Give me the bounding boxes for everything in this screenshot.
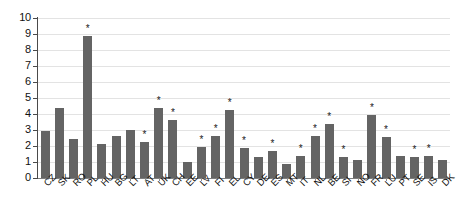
x-tick-mark-nl <box>315 178 316 181</box>
significance-marker-be: * <box>324 112 335 122</box>
x-tick-mark-cy <box>244 178 245 181</box>
x-tick-mark-ch <box>173 178 174 181</box>
bar-fr[interactable] <box>367 115 376 178</box>
significance-marker-lv: * <box>196 135 207 145</box>
bar-ch[interactable] <box>168 120 177 178</box>
x-tick-mark-sk <box>59 178 60 181</box>
x-tick-mark-si <box>343 178 344 181</box>
x-tick-mark-lv <box>201 178 202 181</box>
y-tick-mark-7 <box>33 66 38 67</box>
gridline-7 <box>38 66 450 67</box>
x-tick-mark-uk <box>159 178 160 181</box>
plot-area: ***************** <box>38 18 450 178</box>
significance-marker-it: * <box>295 144 306 154</box>
bar-sk[interactable] <box>55 108 64 178</box>
x-tick-mark-pt <box>400 178 401 181</box>
y-tick-mark-9 <box>33 34 38 35</box>
y-tick-label: 3 <box>6 124 31 135</box>
significance-marker-si: * <box>338 145 349 155</box>
y-tick-label: 9 <box>6 28 31 39</box>
y-tick-label: 10 <box>6 12 31 23</box>
x-tick-mark-no <box>358 178 359 181</box>
y-tick-label: 0 <box>6 172 31 183</box>
gridline-8 <box>38 50 450 51</box>
x-tick-mark-lt <box>130 178 131 181</box>
significance-marker-cy: * <box>239 136 250 146</box>
y-tick-mark-5 <box>33 98 38 99</box>
x-tick-mark-lu <box>386 178 387 181</box>
bar-pl[interactable] <box>83 36 92 178</box>
gridline-6 <box>38 82 450 83</box>
significance-marker-se: * <box>409 145 420 155</box>
y-tick-label: 5 <box>6 92 31 103</box>
gridline-10 <box>38 18 450 19</box>
x-tick-mark-fi <box>216 178 217 181</box>
y-tick-label: 8 <box>6 44 31 55</box>
x-tick-mark-el <box>230 178 231 181</box>
x-tick-mark-pl <box>88 178 89 181</box>
y-tick-mark-1 <box>33 162 38 163</box>
significance-marker-at: * <box>139 130 150 140</box>
x-tick-mark-dk <box>443 178 444 181</box>
y-tick-mark-0 <box>33 178 38 179</box>
y-tick-label: 6 <box>6 76 31 87</box>
y-tick-label: 7 <box>6 60 31 71</box>
x-tick-mark-at <box>145 178 146 181</box>
x-tick-mark-hu <box>102 178 103 181</box>
y-tick-mark-6 <box>33 82 38 83</box>
x-tick-mark-fr <box>372 178 373 181</box>
significance-marker-pl: * <box>82 24 93 34</box>
x-tick-mark-ee <box>187 178 188 181</box>
significance-marker-es: * <box>267 139 278 149</box>
y-tick-mark-2 <box>33 146 38 147</box>
y-tick-mark-10 <box>33 18 38 19</box>
y-tick-label: 2 <box>6 140 31 151</box>
bar-fi[interactable] <box>211 136 220 178</box>
y-tick-label: 4 <box>6 108 31 119</box>
x-tick-mark-de <box>258 178 259 181</box>
bar-uk[interactable] <box>154 108 163 178</box>
gridline-5 <box>38 98 450 99</box>
gridline-9 <box>38 34 450 35</box>
x-tick-mark-be <box>329 178 330 181</box>
significance-marker-el: * <box>224 98 235 108</box>
gridline-4 <box>38 114 450 115</box>
bar-el[interactable] <box>225 110 234 178</box>
x-tick-mark-es <box>272 178 273 181</box>
x-tick-mark-se <box>414 178 415 181</box>
bar-be[interactable] <box>325 124 334 178</box>
x-tick-mark-is <box>429 178 430 181</box>
x-tick-mark-bg <box>116 178 117 181</box>
significance-marker-lu: * <box>381 125 392 135</box>
bar-cz[interactable] <box>41 131 50 178</box>
significance-marker-nl: * <box>310 124 321 134</box>
x-tick-mark-cz <box>45 178 46 181</box>
y-tick-label: 1 <box>6 156 31 167</box>
significance-marker-ch: * <box>167 108 178 118</box>
y-tick-mark-3 <box>33 130 38 131</box>
bar-lt[interactable] <box>126 130 135 178</box>
significance-marker-uk: * <box>153 96 164 106</box>
y-tick-mark-4 <box>33 114 38 115</box>
y-tick-mark-8 <box>33 50 38 51</box>
x-tick-mark-mt <box>287 178 288 181</box>
x-tick-mark-ro <box>74 178 75 181</box>
x-tick-mark-it <box>301 178 302 181</box>
significance-marker-fi: * <box>210 124 221 134</box>
significance-marker-is: * <box>423 144 434 154</box>
significance-marker-fr: * <box>366 103 377 113</box>
